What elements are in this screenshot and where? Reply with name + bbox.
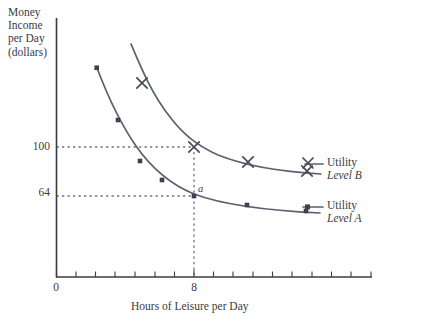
chart-figure: MoneyIncomeper Day(dollars) 100 64 0 8 H… [0, 0, 437, 326]
y-axis-title-line-4: (dollars) [8, 46, 47, 58]
legend-b-line-1: Utility [327, 156, 357, 168]
legend-label-utility-level-a: UtilityLevel A [327, 199, 362, 225]
x-tick-label-8: 8 [184, 281, 204, 293]
y-axis-title-line-1: Money [8, 6, 41, 18]
annotation-point-a: a [198, 183, 203, 194]
y-axis-title: MoneyIncomeper Day(dollars) [8, 6, 47, 59]
legend-a-line-1: Utility [327, 199, 357, 211]
legend-a-line-2: Level A [327, 212, 362, 224]
series-curve-utility-level-a [97, 68, 320, 213]
y-axis-title-line-3: per Day [8, 32, 45, 44]
x-axis-ticks [57, 270, 372, 277]
y-tick-label-100: 100 [10, 140, 50, 152]
x-tick-label-0: 0 [46, 281, 66, 293]
legend-label-utility-level-b: UtilityLevel B [327, 156, 362, 182]
legend-marker-utility-level-a [303, 204, 323, 209]
series-curve-utility-level-b [131, 44, 321, 174]
x-axis-title: Hours of Leisure per Day [131, 300, 249, 312]
legend-marker-utility-level-b [303, 158, 323, 168]
y-tick-label-64: 64 [10, 186, 50, 198]
legend-b-line-2: Level B [327, 169, 362, 181]
chart-plot-area [0, 0, 437, 326]
series-markers-utility-level-b [137, 78, 312, 176]
y-axis-title-line-2: Income [8, 19, 42, 31]
